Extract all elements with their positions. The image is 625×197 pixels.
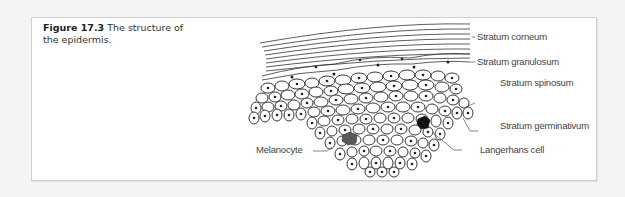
stratum-corneum-lines [260,24,470,71]
label-melanocyte: Melanocyte [256,144,303,155]
cells [249,70,473,177]
label-stratum-granulosum: Stratum granulosum [477,56,559,67]
label-stratum-germinativum: Stratum germinativum [500,120,589,131]
epidermis-diagram [0,0,625,197]
label-stratum-corneum: Stratum corneum [477,31,547,42]
label-langerhans-cell: Langerhans cell [480,144,544,155]
label-stratum-spinosum: Stratum spinosum [500,77,573,88]
